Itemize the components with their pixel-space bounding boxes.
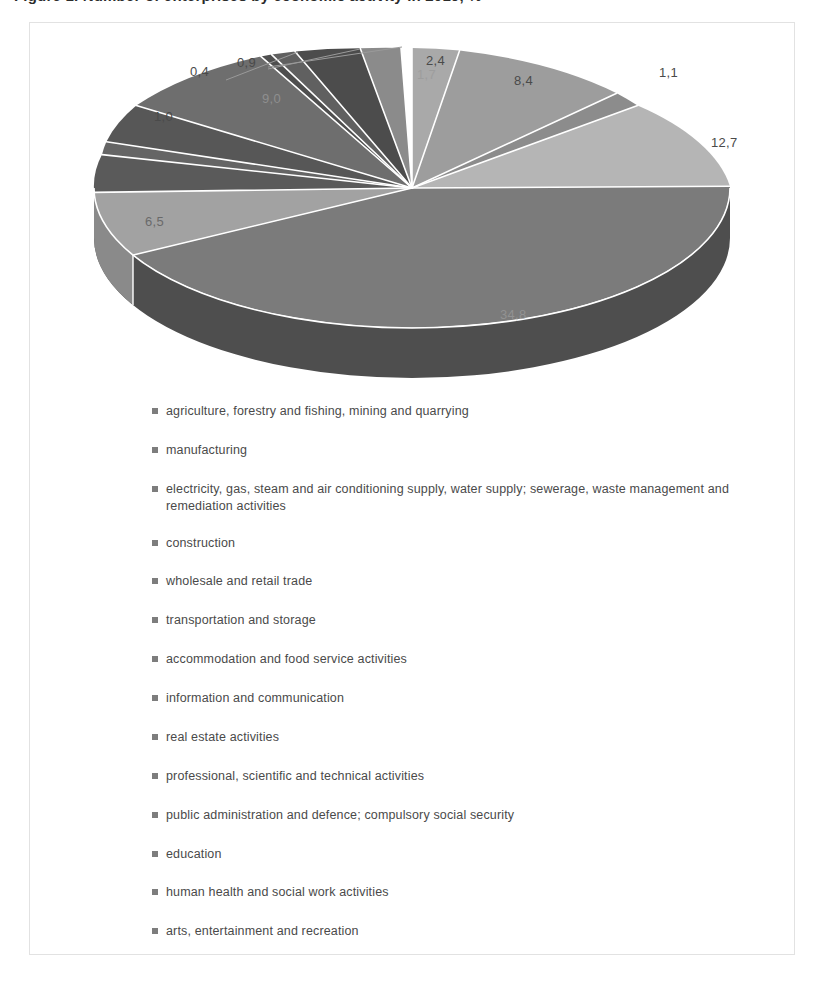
legend-item-agriculture[interactable]: agriculture, forestry and fishing, minin… (152, 403, 752, 420)
pie-label-0-9: 0,9 (237, 55, 256, 70)
legend-bullet-icon (152, 851, 158, 857)
legend-item-human-health[interactable]: human health and social work activities (152, 884, 752, 901)
legend-bullet-icon (152, 734, 158, 740)
page-title: Figure 1. Number of enterprises by econo… (14, 0, 482, 4)
legend-bullet-icon (152, 695, 158, 701)
legend-item-label: information and communication (166, 690, 344, 707)
legend-item-transportation[interactable]: transportation and storage (152, 612, 752, 629)
pie-label-0-4: 0,4 (190, 64, 209, 79)
legend-item-label: agriculture, forestry and fishing, minin… (166, 403, 469, 420)
legend-item-label: accommodation and food service activitie… (166, 651, 407, 668)
legend-item-real-estate[interactable]: real estate activities (152, 729, 752, 746)
legend-item-label: professional, scientific and technical a… (166, 768, 424, 785)
legend-item-accommodation-food[interactable]: accommodation and food service activitie… (152, 651, 752, 668)
legend-item-label: education (166, 846, 222, 863)
legend-bullet-icon (152, 447, 158, 453)
legend-bullet-icon (152, 928, 158, 934)
pie-label-2-4: 2,4 (426, 53, 445, 68)
legend-bullet-icon (152, 656, 158, 662)
legend-item-electricity-gas-water[interactable]: electricity, gas, steam and air conditio… (152, 481, 752, 515)
pie-label-1-0: 1,0 (154, 109, 173, 124)
pie-chart: 2,4 8,4 1,1 12,7 34,8 6,5 1,0 9,0 0,4 0,… (30, 23, 794, 383)
legend-bullet-icon (152, 889, 158, 895)
legend-bullet-icon (152, 540, 158, 546)
pie-label-1-7: 1,7 (417, 67, 436, 82)
legend-item-education[interactable]: education (152, 846, 752, 863)
legend-item-label: real estate activities (166, 729, 279, 746)
legend-item-label: transportation and storage (166, 612, 316, 629)
legend-item-construction[interactable]: construction (152, 535, 752, 552)
chart-legend: agriculture, forestry and fishing, minin… (152, 403, 752, 962)
legend-bullet-icon (152, 578, 158, 584)
pie-label-34-8: 34,8 (500, 307, 527, 322)
legend-bullet-icon (152, 408, 158, 414)
pie-label-12-7: 12,7 (711, 135, 738, 150)
pie-label-1-1: 1,1 (659, 65, 678, 80)
document-title-strip: Figure 1. Number of enterprises by econo… (0, 0, 830, 12)
legend-bullet-icon (152, 812, 158, 818)
legend-item-label: arts, entertainment and recreation (166, 923, 359, 940)
legend-item-label: human health and social work activities (166, 884, 389, 901)
legend-item-information-communication[interactable]: information and communication (152, 690, 752, 707)
pie-label-9-0: 9,0 (262, 91, 281, 106)
legend-item-label: wholesale and retail trade (166, 573, 312, 590)
legend-item-public-administration[interactable]: public administration and defence; compu… (152, 807, 752, 824)
legend-bullet-icon (152, 773, 158, 779)
legend-item-professional-scientific[interactable]: professional, scientific and technical a… (152, 768, 752, 785)
legend-item-label: construction (166, 535, 235, 552)
legend-bullet-icon (152, 617, 158, 623)
legend-item-arts-entertainment[interactable]: arts, entertainment and recreation (152, 923, 752, 940)
chart-frame: 2,4 8,4 1,1 12,7 34,8 6,5 1,0 9,0 0,4 0,… (29, 22, 795, 955)
legend-item-manufacturing[interactable]: manufacturing (152, 442, 752, 459)
legend-item-label: public administration and defence; compu… (166, 807, 514, 824)
pie-label-8-4: 8,4 (514, 73, 533, 88)
pie-chart-svg (30, 23, 794, 383)
legend-item-label: manufacturing (166, 442, 247, 459)
legend-item-wholesale-retail[interactable]: wholesale and retail trade (152, 573, 752, 590)
legend-bullet-icon (152, 486, 158, 492)
legend-item-label: electricity, gas, steam and air conditio… (166, 481, 752, 515)
pie-label-6-5: 6,5 (145, 214, 164, 229)
